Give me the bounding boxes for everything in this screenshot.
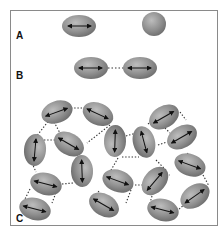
ellipsoid-grain [74, 57, 108, 79]
ellipsoid-grain [28, 169, 65, 199]
ellipsoid-grain [103, 125, 126, 158]
ellipsoid-grain [145, 195, 182, 225]
ellipsoid-grain [23, 133, 48, 167]
ellipsoid-grain [62, 15, 96, 37]
panel-c-grains [17, 96, 215, 225]
ellipsoid-grain [129, 124, 159, 161]
spherical-grain [142, 12, 166, 36]
ellipsoid-grain [38, 96, 76, 128]
ellipsoid-grain [85, 187, 124, 222]
panel-b [74, 57, 157, 79]
ellipsoid-grain [70, 155, 93, 188]
grain-diagram [0, 0, 224, 238]
ellipsoid-grain [79, 97, 117, 130]
ellipsoid-grain [123, 57, 157, 79]
panel-a [62, 12, 166, 37]
ellipsoid-grain [136, 162, 173, 201]
ellipsoid-grain [176, 178, 215, 214]
ellipsoid-grain [17, 194, 54, 224]
ellipsoid-grain [99, 165, 137, 197]
